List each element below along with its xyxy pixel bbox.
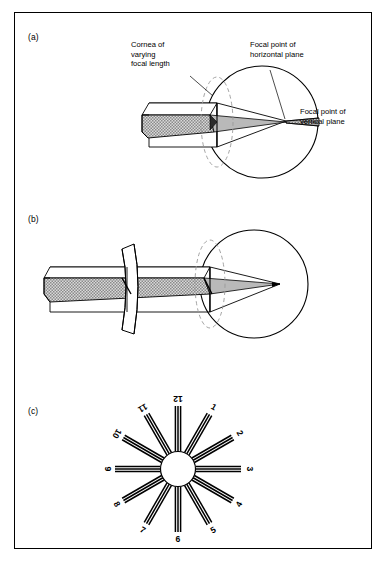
dial-label-8: 8 — [112, 500, 123, 509]
dial-label-7: 7 — [138, 524, 147, 535]
horizontal-focus-callout-text: Focal point of horizontal plane — [250, 40, 304, 59]
dial-spoke-line — [147, 484, 170, 523]
dial-spoke-line — [123, 478, 162, 501]
panel-c-dial: 121234567891011 — [14, 12, 372, 552]
dial-label-12: 12 — [173, 394, 183, 404]
dial-label-9: 9 — [103, 467, 113, 472]
dial-spoke-line — [194, 476, 233, 499]
dial-center-circle — [161, 452, 196, 487]
dial-spoke-line — [123, 438, 162, 461]
dial-spoke-line — [122, 476, 161, 499]
dial-spoke-line — [122, 440, 161, 463]
dial-label-5: 5 — [209, 524, 218, 535]
dial-label-1: 1 — [209, 401, 218, 412]
astigmatism-figure: 121234567891011 (a) (b) (c) Cornea of va… — [0, 0, 388, 567]
dial-spoke-line — [194, 440, 233, 463]
dial-spoke-line — [149, 485, 172, 524]
panel-label-c: (c) — [28, 406, 38, 416]
dial-label-11: 11 — [136, 402, 149, 415]
dial-spoke-line — [187, 414, 210, 453]
dial-spoke-line — [147, 414, 170, 453]
panel-label-b: (b) — [28, 214, 39, 224]
dial-label-6: 6 — [176, 534, 181, 544]
dial-label-10: 10 — [110, 427, 124, 440]
cornea-callout-text: Cornea of varying focal length — [131, 40, 170, 69]
dial-spoke-line — [185, 485, 208, 524]
dial-spoke-line — [193, 438, 232, 461]
dial-spoke-line — [149, 413, 172, 452]
dial-spoke-line — [193, 478, 232, 501]
dial-spoke-line — [187, 484, 210, 523]
dial-label-2: 2 — [235, 429, 246, 438]
dial-label-3: 3 — [245, 467, 255, 472]
dial-label-4: 4 — [233, 499, 244, 508]
dial-spoke-line — [185, 413, 208, 452]
vertical-focus-callout-text: Focal point of vertical plane — [300, 107, 346, 126]
panel-label-a: (a) — [28, 32, 39, 42]
